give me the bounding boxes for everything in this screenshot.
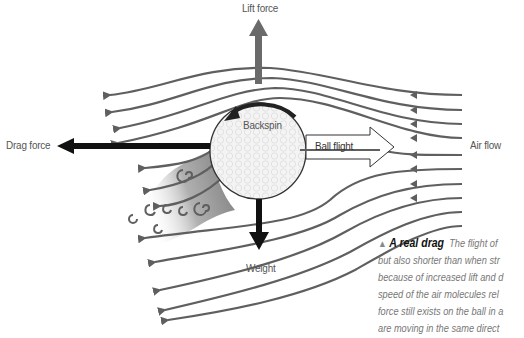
caption-heading: A real drag xyxy=(389,236,444,250)
backspin-label: Backspin xyxy=(243,119,282,131)
figure-caption: ▲ A real drag The flight of but also sho… xyxy=(378,235,524,337)
golf-ball xyxy=(210,103,306,199)
caption-line: force still exists on the ball in a xyxy=(378,303,524,320)
lift-force-label: Lift force xyxy=(242,2,278,14)
triangle-marker-icon: ▲ xyxy=(378,238,387,249)
ball-flight-label: Ball flight xyxy=(315,140,353,152)
caption-line: because of increased lift and d xyxy=(378,269,524,286)
caption-line: are moving in the same direct xyxy=(378,320,524,337)
lift-force-arrow xyxy=(249,19,268,84)
caption-line: speed of the air molecules rel xyxy=(378,286,524,303)
air-flow-label: Air flow xyxy=(470,139,501,151)
caption-line: The flight of xyxy=(449,237,497,249)
caption-line: but also shorter than when str xyxy=(378,252,524,269)
drag-force-label: Drag force xyxy=(6,139,50,151)
weight-label: Weight xyxy=(246,262,276,274)
airflow-arrowheads xyxy=(410,91,417,202)
